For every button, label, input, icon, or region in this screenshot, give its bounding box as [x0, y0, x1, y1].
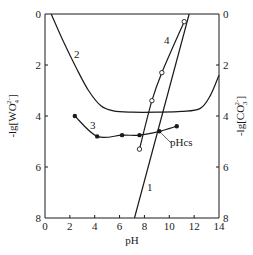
y-axis-title-left: -lg[WO42-]	[5, 94, 21, 137]
curve-2-label: 2	[74, 48, 80, 60]
y-left-tick-label: 8	[36, 212, 42, 224]
curve-3-label: 3	[90, 119, 96, 131]
chart-canvas: 024681012140246802468 pH -lg[WO42-] -lg[…	[0, 0, 253, 255]
svg-text:-lg[WO42-]: -lg[WO42-]	[5, 94, 21, 137]
data-point-filled	[175, 124, 179, 128]
y-left-tick-label: 2	[36, 59, 42, 71]
series-4	[137, 19, 186, 151]
y-right-tick-label: 4	[223, 110, 229, 122]
labels-group: pH -lg[WO42-] -lg[CO32-] 1 2 3 4 pHcs	[5, 34, 249, 246]
plot-frame	[45, 14, 219, 218]
y-left-tick-label: 0	[36, 8, 42, 20]
data-point-open	[160, 70, 164, 74]
data-point-filled	[137, 133, 141, 137]
data-point-filled	[120, 133, 124, 137]
series-2	[51, 14, 219, 112]
x-tick-label: 0	[42, 220, 48, 232]
y-right-tick-label: 2	[223, 59, 229, 71]
data-point-filled	[73, 114, 77, 118]
data-point-open	[150, 99, 154, 103]
y-left-tick-label: 6	[36, 161, 42, 173]
curve-4-label: 4	[164, 34, 170, 46]
series-group	[51, 14, 219, 218]
y-left-tick-label: 4	[36, 110, 42, 122]
svg-text:-lg[CO32-]: -lg[CO32-]	[233, 96, 249, 136]
y-right-tick-label: 6	[223, 161, 229, 173]
curve-1-line	[134, 14, 189, 218]
data-point-filled	[95, 134, 99, 138]
curve-2-line	[51, 14, 219, 112]
x-tick-label: 6	[117, 220, 123, 232]
data-point-open	[182, 19, 186, 23]
x-tick-label: 10	[164, 220, 176, 232]
y-axis-title-right: -lg[CO32-]	[233, 96, 249, 136]
curve-1-label: 1	[147, 181, 153, 193]
x-tick-label: 12	[189, 220, 200, 232]
x-axis-title: pH	[125, 234, 139, 246]
curve-4-line	[139, 22, 184, 149]
x-tick-label: 8	[142, 220, 148, 232]
axis-ticks: 024681012140246802468	[36, 8, 230, 232]
y-right-tick-label: 8	[223, 212, 229, 224]
data-point-filled	[157, 129, 161, 133]
x-tick-label: 4	[92, 220, 98, 232]
series-1	[134, 14, 189, 218]
y-right-tick-label: 0	[223, 8, 229, 20]
phcs-label: pHcs	[170, 136, 193, 148]
data-point-open	[137, 147, 141, 151]
x-tick-label: 2	[67, 220, 73, 232]
